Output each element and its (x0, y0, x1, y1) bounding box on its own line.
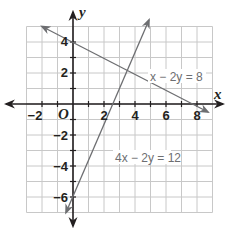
x-tick-label: 2 (100, 108, 107, 123)
y-axis-label: y (77, 4, 86, 20)
y-tick-label: −4 (53, 159, 69, 174)
coordinate-plane: y x O −2 2 4 6 8 4 2 −2 −4 −6 x − 2y = 8… (0, 0, 231, 234)
y-tick-label: 2 (61, 65, 68, 80)
y-tick-label: −6 (53, 190, 68, 205)
equation-label-line2: 4x − 2y = 12 (115, 151, 181, 165)
y-tick-label: −2 (53, 128, 68, 143)
x-tick-label: 6 (162, 108, 169, 123)
grid (27, 27, 213, 213)
x-tick-label: −2 (28, 108, 43, 123)
y-tick-label: 4 (61, 34, 69, 49)
x-tick-label: 4 (131, 108, 139, 123)
x-axis-label: x (213, 86, 222, 102)
origin-label: O (58, 106, 69, 122)
x-tick-label: 8 (193, 108, 200, 123)
equation-label-line1: x − 2y = 8 (150, 70, 203, 84)
